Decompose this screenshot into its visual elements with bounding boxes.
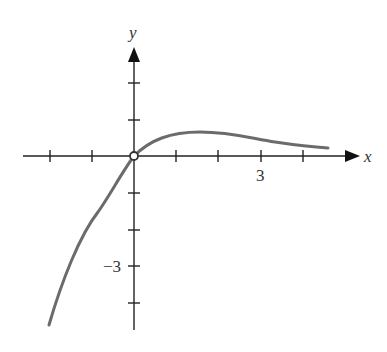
- function-graph: x y 3 −3: [0, 0, 387, 352]
- x-axis-arrow-icon: [345, 150, 360, 162]
- y-tick-label-neg3: −3: [103, 257, 121, 276]
- y-axis-arrow-icon: [128, 47, 140, 62]
- y-axis-label: y: [127, 23, 137, 42]
- open-point-origin: [130, 152, 138, 160]
- function-curve: [49, 132, 328, 325]
- x-axis-label: x: [363, 147, 372, 166]
- x-tick-label-3: 3: [256, 166, 265, 185]
